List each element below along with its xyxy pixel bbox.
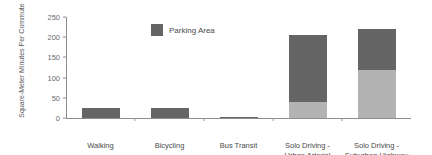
y-tick: 0 <box>56 114 66 123</box>
x-axis-label: Bus Transit <box>220 141 258 151</box>
bar-segment-parking-area <box>82 108 120 118</box>
bar-segment-parking-area <box>151 108 189 118</box>
y-tick-label: 250 <box>47 13 60 22</box>
y-tick-label: 200 <box>47 33 60 42</box>
y-tick: 250 <box>47 13 66 22</box>
bar <box>220 117 258 118</box>
x-axis-label: Walking <box>87 141 113 151</box>
y-tick: 100 <box>47 73 66 82</box>
legend-swatch-parking-area <box>151 24 163 36</box>
x-axis-label-line: Bus Transit <box>220 141 258 151</box>
x-axis-label-line: Bicycling <box>155 141 185 151</box>
x-axis-label-line: Urban Arterial <box>285 151 331 155</box>
x-axis-label-line: Solo Driving - <box>345 141 408 151</box>
bar <box>289 35 327 118</box>
bar-segment-travel-area <box>358 70 396 118</box>
y-tick-mark <box>63 17 66 18</box>
y-tick-mark <box>63 97 66 98</box>
y-tick-label: 0 <box>56 114 60 123</box>
x-tick-mark <box>273 118 274 121</box>
bar-segment-parking-area <box>289 35 327 102</box>
x-axis-label-line: Suburban Highway <box>345 151 408 155</box>
plot-area: 050100150200250 WalkingBicyclingBus Tran… <box>66 17 411 118</box>
y-tick-mark <box>63 77 66 78</box>
bar <box>82 108 120 118</box>
x-tick-mark <box>204 118 205 121</box>
bar <box>151 108 189 118</box>
x-axis-line <box>66 118 411 119</box>
y-tick: 150 <box>47 53 66 62</box>
legend-label-parking-area: Parking Area <box>169 26 215 35</box>
x-axis-label-line: Solo Driving - <box>285 141 331 151</box>
y-tick-mark <box>63 37 66 38</box>
y-axis-title-text: Square-Meter Minutes Per Commute <box>17 3 26 117</box>
y-tick-label: 100 <box>47 73 60 82</box>
x-axis-label: Solo Driving -Urban Arterial <box>285 141 331 155</box>
bar <box>358 29 396 118</box>
x-axis-label-line: Walking <box>87 141 113 151</box>
x-tick-mark <box>135 118 136 121</box>
x-axis-label: Bicycling <box>155 141 185 151</box>
bar-segment-travel-area <box>289 102 327 118</box>
y-axis-line <box>66 17 67 118</box>
bar-segment-parking-area <box>220 117 258 118</box>
legend: Parking Area <box>151 24 215 36</box>
y-tick-mark <box>63 118 66 119</box>
x-tick-mark <box>342 118 343 121</box>
y-tick-label: 150 <box>47 53 60 62</box>
y-tick-mark <box>63 57 66 58</box>
bar-chart: Square-Meter Minutes Per Commute 0501001… <box>0 0 432 155</box>
x-axis-label: Solo Driving -Suburban Highway <box>345 141 408 155</box>
y-tick-label: 50 <box>52 93 60 102</box>
bar-segment-parking-area <box>358 29 396 69</box>
y-tick: 50 <box>52 93 66 102</box>
y-axis-title: Square-Meter Minutes Per Commute <box>8 0 34 120</box>
y-tick: 200 <box>47 33 66 42</box>
